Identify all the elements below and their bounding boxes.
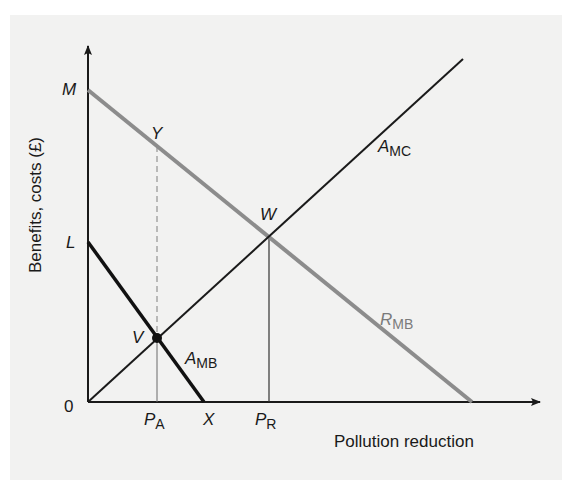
point-v-marker (152, 333, 162, 343)
label-w: W (260, 205, 278, 224)
rmb-curve (88, 90, 472, 402)
tick-label-pr-main: P (255, 410, 267, 429)
y-axis-label: Benefits, costs (£) (26, 137, 45, 273)
tick-label-pr: PR (255, 410, 276, 432)
label-amb: AMB (184, 349, 217, 371)
label-amc: AMC (377, 137, 411, 159)
label-y: Y (151, 124, 164, 143)
tick-label-pa: PA (144, 410, 165, 432)
label-amc-main: A (377, 137, 389, 156)
label-m: M (62, 80, 77, 99)
label-l: L (66, 233, 75, 252)
pollution-abatement-diagram: Benefits, costs (£) M L 0 Y V W AMC RMB … (0, 0, 579, 492)
tick-label-pa-sub: A (155, 416, 165, 432)
label-rmb-sub: MB (392, 316, 413, 332)
label-rmb-main: R (380, 310, 392, 329)
tick-label-x: X (202, 410, 215, 429)
tick-label-pr-sub: R (266, 416, 276, 432)
label-origin: 0 (64, 397, 73, 416)
amb-curve (88, 242, 204, 402)
tick-label-pa-main: P (144, 410, 156, 429)
x-axis-label: Pollution reduction (334, 432, 474, 451)
label-amb-main: A (184, 349, 196, 368)
label-amc-sub: MC (389, 143, 411, 159)
label-v: V (132, 328, 145, 347)
label-amb-sub: MB (196, 355, 217, 371)
label-rmb: RMB (380, 310, 413, 332)
